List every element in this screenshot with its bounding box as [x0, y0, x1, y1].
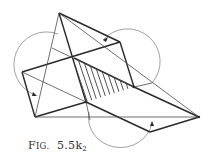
thick-edges	[22, 13, 199, 132]
node-hatch-bottom	[85, 101, 87, 103]
node-right-tip	[198, 116, 200, 118]
left-arc-arrow	[32, 92, 37, 96]
caption-subscript: 2	[82, 145, 87, 153]
caption-number: 5.5k	[57, 139, 82, 152]
figure-caption: FIG. 5.5k2	[28, 139, 87, 153]
right-rotation-arc	[103, 29, 160, 83]
caption-smallcaps: IG.	[36, 141, 49, 151]
hatched-region	[70, 50, 145, 110]
bottom-arc-arrow	[150, 121, 154, 126]
node-hatch-right	[133, 86, 135, 88]
caption-prefix: F	[28, 139, 36, 152]
thin-edges	[22, 13, 199, 120]
